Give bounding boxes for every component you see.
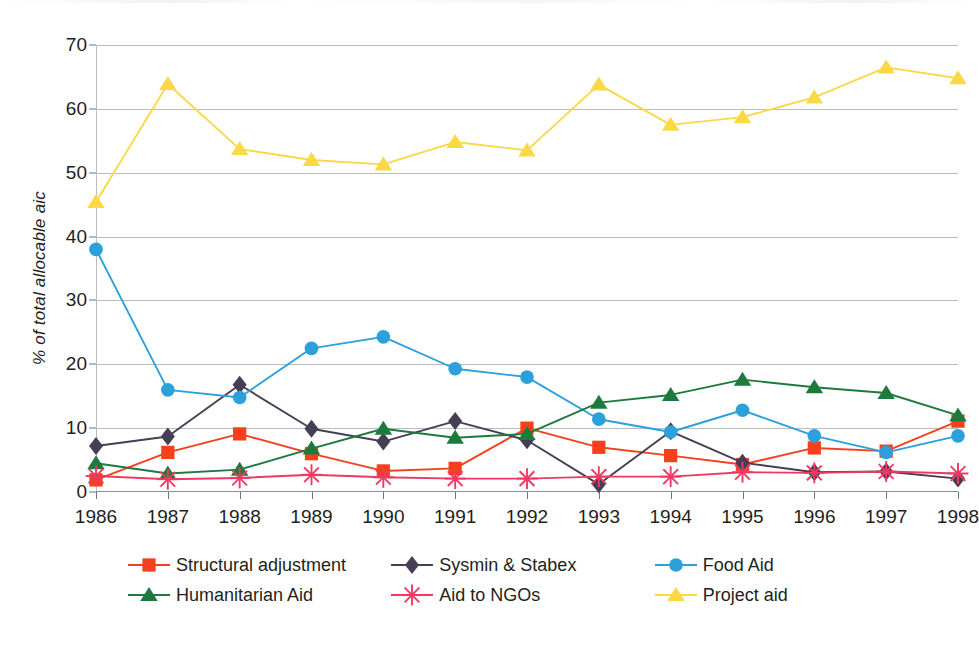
- x-tick-mark: [312, 492, 313, 499]
- x-tick-mark: [383, 492, 384, 499]
- data-point: [89, 243, 103, 257]
- y-tick-label: 50: [66, 162, 87, 184]
- y-tick-mark: [89, 45, 96, 46]
- series-lines: [96, 45, 958, 492]
- x-tick-label: 1995: [721, 506, 763, 528]
- x-tick-mark: [814, 492, 815, 499]
- legend-item-aid-to-ngos[interactable]: Aid to NGOs: [389, 583, 652, 607]
- data-point: [807, 429, 821, 443]
- plot-area: 010203040506070 198619871988198919901991…: [96, 45, 958, 492]
- x-tick-mark: [96, 492, 97, 499]
- legend-item-food-aid[interactable]: Food Aid: [653, 553, 916, 577]
- chart-legend: Structural adjustmentSysmin & StabexFood…: [126, 553, 916, 607]
- y-tick-mark: [89, 492, 96, 493]
- data-point: [229, 468, 250, 489]
- x-tick-label: 1993: [578, 506, 620, 528]
- data-point: [373, 467, 394, 488]
- data-point: [517, 468, 538, 489]
- x-tick-label: 1991: [434, 506, 476, 528]
- diamond-marker-icon: [389, 553, 435, 577]
- data-point: [876, 461, 897, 482]
- legend-label: Sysmin & Stabex: [435, 555, 576, 576]
- data-point: [157, 469, 178, 490]
- x-tick-mark: [886, 492, 887, 499]
- x-tick-label: 1996: [793, 506, 835, 528]
- data-point: [86, 466, 107, 487]
- scan-artifact: [0, 0, 974, 3]
- y-tick-label: 40: [66, 226, 87, 248]
- data-point: [736, 403, 750, 417]
- asterisk-marker-icon: [389, 583, 435, 607]
- data-point: [87, 194, 104, 208]
- data-point: [590, 77, 607, 91]
- data-point: [592, 441, 605, 454]
- x-tick-label: 1992: [506, 506, 548, 528]
- square-marker-icon: [126, 553, 172, 577]
- y-tick-label: 0: [76, 481, 87, 503]
- data-point: [448, 362, 462, 376]
- series-aid-to-ngos: [86, 461, 969, 490]
- data-point: [301, 464, 322, 485]
- x-tick-label: 1990: [362, 506, 404, 528]
- x-tick-label: 1988: [219, 506, 261, 528]
- data-point: [664, 449, 677, 462]
- triangle-marker-icon: [653, 583, 699, 607]
- x-tick-label: 1987: [147, 506, 189, 528]
- legend-label: Structural adjustment: [172, 555, 346, 576]
- series-project-aid: [87, 59, 966, 208]
- data-point: [592, 412, 606, 426]
- data-point: [951, 429, 965, 443]
- y-tick-label: 10: [66, 417, 87, 439]
- x-tick-label: 1989: [290, 506, 332, 528]
- y-tick-mark: [89, 172, 96, 173]
- data-point: [89, 437, 103, 455]
- legend-item-sysmin-stabex[interactable]: Sysmin & Stabex: [389, 553, 652, 577]
- series-line: [96, 67, 958, 202]
- legend-item-humanitarian-aid[interactable]: Humanitarian Aid: [126, 583, 389, 607]
- legend-item-structural-adjustment[interactable]: Structural adjustment: [126, 553, 389, 577]
- data-point: [376, 433, 390, 451]
- y-tick-label: 70: [66, 34, 87, 56]
- data-point: [948, 463, 969, 484]
- x-tick-mark: [527, 492, 528, 499]
- data-point: [161, 446, 174, 459]
- data-point: [233, 427, 246, 440]
- x-tick-mark: [958, 492, 959, 499]
- x-tick-mark: [671, 492, 672, 499]
- data-point: [233, 391, 247, 405]
- circle-marker-icon: [653, 553, 699, 577]
- y-axis-label: % of total allocable aic: [30, 78, 50, 478]
- y-tick-label: 30: [66, 289, 87, 311]
- x-tick-mark: [455, 492, 456, 499]
- y-tick-label: 20: [66, 353, 87, 375]
- x-tick-mark: [168, 492, 169, 499]
- data-point: [446, 134, 463, 148]
- data-point: [445, 468, 466, 489]
- data-point: [734, 372, 751, 386]
- data-point: [376, 330, 390, 344]
- legend-item-project-aid[interactable]: Project aid: [653, 583, 916, 607]
- data-point: [808, 441, 821, 454]
- legend-label: Aid to NGOs: [435, 585, 540, 606]
- data-point: [161, 383, 175, 397]
- data-point: [161, 427, 175, 445]
- y-tick-mark: [89, 108, 96, 109]
- data-point: [664, 425, 678, 439]
- y-tick-label: 60: [66, 98, 87, 120]
- data-point: [448, 412, 462, 430]
- y-tick-mark: [89, 236, 96, 237]
- data-point: [877, 59, 894, 73]
- y-tick-mark: [89, 428, 96, 429]
- data-point: [588, 466, 609, 487]
- x-tick-label: 1997: [865, 506, 907, 528]
- x-tick-mark: [240, 492, 241, 499]
- legend-label: Humanitarian Aid: [172, 585, 313, 606]
- x-tick-mark: [743, 492, 744, 499]
- x-tick-label: 1994: [650, 506, 692, 528]
- data-point: [660, 466, 681, 487]
- data-point: [804, 462, 825, 483]
- legend-label: Project aid: [699, 585, 788, 606]
- x-tick-label: 1986: [75, 506, 117, 528]
- y-tick-mark: [89, 300, 96, 301]
